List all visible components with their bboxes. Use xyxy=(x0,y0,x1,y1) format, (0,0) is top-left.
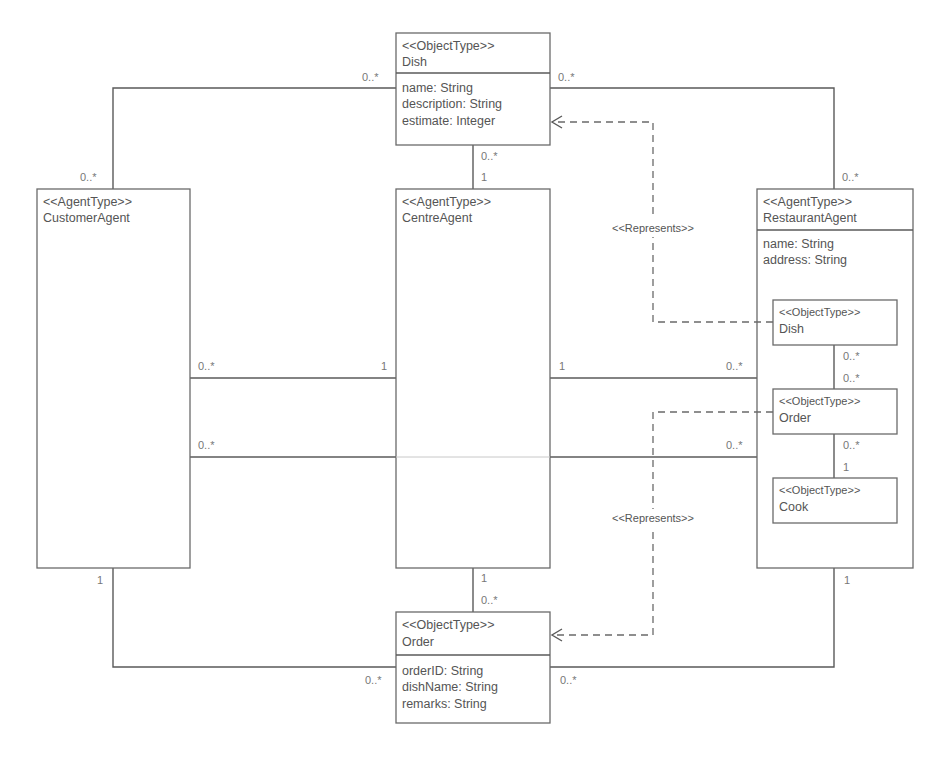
multiplicity-label: 0..* xyxy=(843,372,860,384)
attribute: estimate: Integer xyxy=(402,114,495,128)
multiplicity-label: 0..* xyxy=(481,150,498,162)
attribute: remarks: String xyxy=(402,697,487,711)
multiplicity-label: 0..* xyxy=(558,71,575,83)
stereotype-label: <<ObjectType>> xyxy=(402,618,494,632)
attribute: orderID: String xyxy=(402,664,483,678)
dependency-label: <<Represents>> xyxy=(612,512,694,524)
dependency-represents-dish: <<Represents>> xyxy=(552,116,773,322)
class-dish[interactable]: <<ObjectType>> Dish name: String descrip… xyxy=(396,33,550,145)
attribute: description: String xyxy=(402,97,502,111)
assoc-restaurant-order xyxy=(550,568,834,667)
multiplicity-label: 1 xyxy=(481,171,487,183)
class-box xyxy=(37,189,190,568)
multiplicity-label: 0..* xyxy=(80,171,97,183)
inner-class-cook[interactable]: <<ObjectType>> Cook xyxy=(773,478,897,523)
multiplicity-label: 0..* xyxy=(481,594,498,606)
multiplicity-label: 1 xyxy=(97,574,103,586)
stereotype-label: <<ObjectType>> xyxy=(402,39,494,53)
class-name: RestaurantAgent xyxy=(763,211,857,225)
multiplicity-label: 1 xyxy=(481,572,487,584)
stereotype-label: <<AgentType>> xyxy=(43,195,132,209)
multiplicity-label: 0..* xyxy=(842,171,859,183)
stereotype-label: <<AgentType>> xyxy=(402,195,491,209)
class-name: Cook xyxy=(779,500,809,514)
multiplicity-label: 0..* xyxy=(843,350,860,362)
inner-class-dish[interactable]: <<ObjectType>> Dish xyxy=(773,300,897,345)
stereotype-label: <<AgentType>> xyxy=(763,195,852,209)
class-restaurant-agent[interactable]: <<AgentType>> RestaurantAgent name: Stri… xyxy=(757,189,913,568)
stereotype-label: <<ObjectType>> xyxy=(779,395,860,407)
multiplicity-label: 0..* xyxy=(726,439,743,451)
class-name: CentreAgent xyxy=(402,211,473,225)
attribute: name: String xyxy=(763,237,834,251)
multiplicity-label: 1 xyxy=(844,574,850,586)
attribute: address: String xyxy=(763,253,847,267)
attribute: name: String xyxy=(402,81,473,95)
class-name: Order xyxy=(779,411,811,425)
multiplicity-label: 0..* xyxy=(560,674,577,686)
multiplicity-label: 0..* xyxy=(365,674,382,686)
class-name: Order xyxy=(402,635,434,649)
class-name: Dish xyxy=(402,55,427,69)
multiplicity-label: 0..* xyxy=(726,360,743,372)
multiplicity-label: 1 xyxy=(381,360,387,372)
assoc-customer-order xyxy=(113,568,396,667)
class-order[interactable]: <<ObjectType>> Order orderID: String dis… xyxy=(396,612,550,723)
multiplicity-label: 1 xyxy=(559,360,565,372)
class-name: Dish xyxy=(779,322,804,336)
inner-class-order[interactable]: <<ObjectType>> Order xyxy=(773,389,897,434)
assoc-dish-restaurant xyxy=(550,88,834,189)
assoc-dish-customer xyxy=(113,88,396,189)
multiplicity-label: 0..* xyxy=(362,71,379,83)
dependency-label: <<Represents>> xyxy=(612,222,694,234)
class-customer-agent[interactable]: <<AgentType>> CustomerAgent xyxy=(37,189,190,568)
attribute: dishName: String xyxy=(402,680,498,694)
uml-diagram: <<ObjectType>> Dish name: String descrip… xyxy=(0,0,945,765)
multiplicity-label: 0..* xyxy=(198,439,215,451)
multiplicity-label: 1 xyxy=(843,461,849,473)
class-name: CustomerAgent xyxy=(43,211,130,225)
multiplicity-label: 0..* xyxy=(843,439,860,451)
stereotype-label: <<ObjectType>> xyxy=(779,306,860,318)
stereotype-label: <<ObjectType>> xyxy=(779,484,860,496)
class-box xyxy=(396,189,550,568)
multiplicity-label: 0..* xyxy=(198,360,215,372)
class-centre-agent[interactable]: <<AgentType>> CentreAgent xyxy=(396,189,550,568)
